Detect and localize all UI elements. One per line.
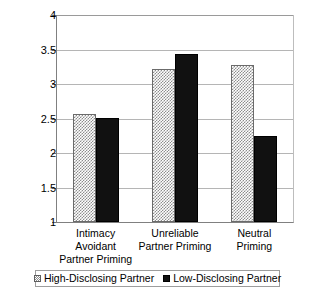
x-axis-category-label-line: Partner Priming: [56, 253, 135, 266]
bar: [73, 114, 96, 222]
y-axis-tick-label: 2: [10, 148, 56, 159]
x-axis-category-label: Intimacy AvoidantPartner Priming: [56, 227, 135, 261]
x-axis-category-label-line: Partner Priming: [135, 240, 214, 253]
x-axis-category-label: NeutralPriming: [215, 227, 294, 261]
y-axis-tick-label: 3.5: [10, 45, 56, 56]
x-axis-category-label: UnreliablePartner Priming: [135, 227, 214, 261]
legend-item-low-disclosing-partner: Low-Disclosing Partner: [163, 273, 281, 284]
legend-label-high-disclosing-partner: High-Disclosing Partner: [44, 273, 154, 284]
x-axis-category-label-line: Priming: [215, 240, 294, 253]
legend-item-high-disclosing-partner: High-Disclosing Partner: [34, 273, 154, 284]
bars-layer: [57, 15, 293, 222]
plot-area: [56, 15, 294, 223]
legend-swatch-checkered-icon: [34, 275, 41, 282]
bar: [175, 54, 198, 222]
bar: [231, 65, 254, 222]
x-axis-category-label-line: Intimacy Avoidant: [75, 227, 116, 252]
y-axis-tick-label: 1.5: [10, 183, 56, 194]
y-axis-tick-label: 2.5: [10, 114, 56, 125]
x-axis-category-labels: Intimacy AvoidantPartner PrimingUnreliab…: [56, 227, 294, 261]
y-axis-tick-label: 4: [10, 10, 56, 21]
legend-swatch-solid-icon: [163, 275, 170, 282]
legend-label-low-disclosing-partner: Low-Disclosing Partner: [173, 273, 281, 284]
y-axis-tick-label: 3: [10, 79, 56, 90]
x-axis-category-label-line: Neutral: [237, 227, 271, 239]
x-axis-category-label-line: Unreliable: [151, 227, 198, 239]
bar: [96, 118, 119, 222]
bar: [152, 69, 175, 222]
y-axis: 43.532.521.51: [0, 15, 56, 223]
bar-chart: 43.532.521.51 Intimacy AvoidantPartner P…: [0, 0, 315, 296]
bar: [254, 136, 277, 222]
y-axis-tick-label: 1: [10, 217, 56, 228]
legend: High-Disclosing Partner Low-Disclosing P…: [35, 270, 280, 287]
